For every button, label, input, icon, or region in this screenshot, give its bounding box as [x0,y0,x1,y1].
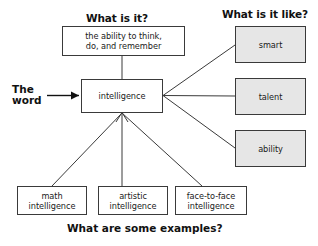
node-attribute-talent-label: talent [238,92,303,102]
connector-center-to-math [52,113,122,186]
caption-what-are-some-examples: What are some examples? [67,222,223,234]
heading-what-is-it: What is it? [86,12,148,24]
node-example-face-to-face-label: face-to-face intelligence [178,191,244,211]
node-center-intelligence-label: intelligence [84,91,160,101]
concept-map-diagram: What is it? What is it like? The word th… [0,0,318,246]
arrowhead-up-icon [116,113,128,123]
node-attribute-ability-label: ability [238,144,303,154]
connector-center-to-face-to-face [122,113,202,186]
heading-what-is-it-like: What is it like? [222,8,308,20]
node-attribute-smart-label: smart [238,40,303,50]
node-attribute-smart: smart [235,26,306,63]
node-attribute-ability: ability [235,130,306,167]
node-example-face-to-face: face-to-face intelligence [175,186,247,215]
node-attribute-talent: talent [235,78,306,115]
node-definition: the ability to think, do, and remember [62,26,185,56]
node-example-artistic-label: artistic intelligence [101,191,165,211]
node-center-intelligence: intelligence [81,79,163,113]
node-example-artistic: artistic intelligence [98,186,168,215]
node-example-math-label: math intelligence [20,191,84,211]
node-example-math: math intelligence [17,186,87,215]
node-definition-label: the ability to think, do, and remember [65,31,182,51]
connector-center-to-talent [163,96,235,97]
label-the-word: The word [12,84,42,106]
connector-center-to-ability [163,96,235,149]
